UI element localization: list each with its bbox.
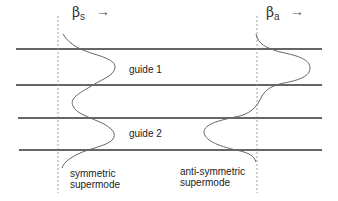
symmetric-mode-curve (62, 34, 115, 168)
beta-subscript: a (274, 11, 280, 22)
beta-subscript: s (80, 11, 85, 22)
beta-symbol: β (266, 4, 274, 20)
propagation-arrow-icon: → (96, 3, 110, 19)
beta-s-label: βs (72, 4, 85, 22)
diagram-canvas (0, 0, 338, 201)
beta-a-label: βa (266, 4, 280, 22)
antisymmetric-caption-line1: anti-symmetric (180, 166, 245, 177)
beta-symbol: β (72, 4, 80, 20)
guide-1-label: guide 1 (129, 64, 162, 75)
symmetric-caption-line1: symmetric (70, 168, 116, 179)
symmetric-caption-line2: supermode (70, 179, 120, 190)
antisymmetric-caption-line2: supermode (180, 177, 230, 188)
propagation-arrow-icon: → (290, 3, 304, 19)
guide-2-label: guide 2 (129, 128, 162, 139)
